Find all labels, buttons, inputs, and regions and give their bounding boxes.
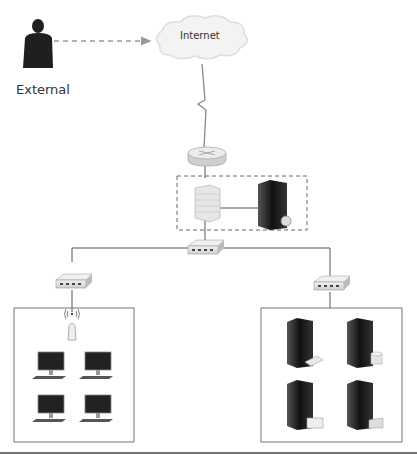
right-switch-icon xyxy=(314,276,350,290)
database-server-icon xyxy=(347,318,382,368)
file-server-icon xyxy=(347,380,383,430)
desktop-computer-icon xyxy=(32,395,66,422)
left-switch-icon xyxy=(56,274,92,288)
internet-label: Internet xyxy=(180,30,220,41)
wan-link-lightning-icon xyxy=(198,64,206,148)
desktop-computer-icon xyxy=(32,352,66,379)
router-icon xyxy=(188,147,226,166)
network-diagram xyxy=(0,0,417,458)
wireless-access-point-icon xyxy=(65,309,80,340)
desktop-computer-icon xyxy=(79,352,113,379)
person-icon xyxy=(23,19,53,68)
external-label: External xyxy=(16,82,70,97)
desktop-computer-icon xyxy=(79,395,113,422)
core-switch-icon xyxy=(188,240,224,254)
print-server-icon xyxy=(287,380,323,430)
dmz-server-icon xyxy=(258,180,291,230)
connections xyxy=(72,162,330,312)
firewall-icon xyxy=(195,185,220,222)
mail-server-icon xyxy=(287,318,323,368)
